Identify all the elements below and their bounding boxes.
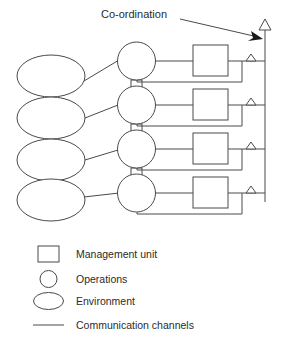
spine-top-triangle-icon (259, 19, 271, 30)
coordination-leader-line (180, 19, 258, 37)
operations-circle-3[interactable] (118, 130, 156, 168)
environment-column (17, 55, 85, 221)
coordination-label: Co-ordination (101, 8, 167, 20)
legend-label-environment: Environment (76, 295, 135, 307)
environment-ellipse-3[interactable] (17, 139, 85, 181)
environment-ellipse-4[interactable] (17, 179, 85, 221)
environment-ellipse-1[interactable] (17, 55, 85, 97)
operations-management-links (155, 61, 265, 193)
management-unit-square-1[interactable] (193, 45, 228, 76)
legend: Management unit Operations Environment C… (33, 246, 194, 331)
management-unit-square-3[interactable] (193, 133, 228, 164)
legend-ellipse-icon (34, 293, 64, 310)
operations-circle-2[interactable] (118, 86, 156, 124)
feedback-chevron-icon-1 (246, 54, 256, 61)
legend-square-icon (38, 246, 59, 262)
legend-label-management-unit: Management unit (76, 248, 157, 260)
operations-circle-4[interactable] (118, 174, 156, 212)
feedback-chevron-icon-3 (246, 142, 256, 149)
feedback-chevron-markers (246, 54, 256, 193)
legend-label-communication-channels: Communication channels (76, 319, 194, 331)
environment-ellipse-2[interactable] (17, 97, 85, 139)
coordination-arrowhead-icon (248, 31, 263, 41)
link-env-ops-3 (85, 150, 118, 160)
legend-label-operations: Operations (76, 273, 127, 285)
environment-operations-links (84, 60, 119, 197)
legend-circle-icon (40, 271, 57, 288)
feedback-chevron-icon-2 (246, 98, 256, 105)
operations-circle-1[interactable] (118, 42, 156, 80)
link-env-ops-1 (84, 60, 119, 81)
vsm-diagram-canvas: Co-ordination Management unit Operations… (0, 0, 294, 345)
management-unit-square-2[interactable] (193, 89, 228, 120)
link-env-ops-2 (85, 105, 118, 118)
management-unit-square-4[interactable] (193, 177, 228, 208)
feedback-chevron-icon-4 (246, 186, 256, 193)
link-env-ops-4 (84, 193, 119, 197)
diagram-root: Co-ordination Management unit Operations… (0, 0, 294, 345)
